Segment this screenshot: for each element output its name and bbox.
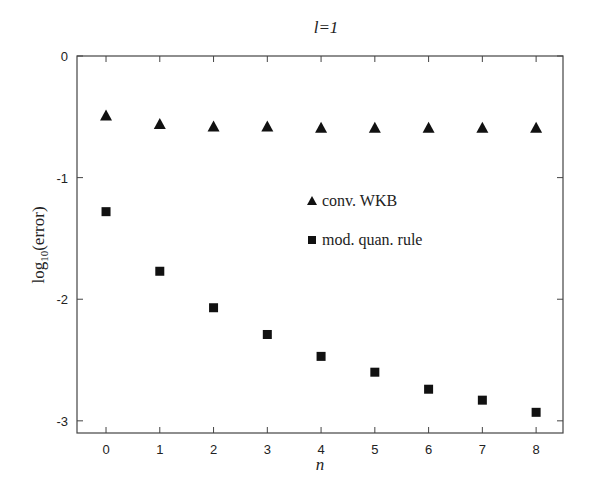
y-axis-label: log10(error) [29, 206, 50, 283]
x-tick-label: 1 [156, 442, 163, 457]
y-axis-tick-labels: 0-1-2-3 [56, 49, 68, 429]
triangle-data-point [100, 110, 112, 121]
square-marker-icon [308, 236, 316, 244]
x-tick-label: 2 [210, 442, 217, 457]
x-tick-label: 6 [425, 442, 432, 457]
x-tick-label: 0 [102, 442, 109, 457]
legend-item-conv-wkb: conv. WKB [307, 192, 397, 209]
chart-svg: l=1 012345678 0-1-2-3 n log10(error) con… [0, 0, 593, 486]
legend-label: mod. quan. rule [322, 231, 422, 249]
square-data-point [317, 352, 326, 361]
y-tick-label: -3 [56, 414, 68, 429]
square-data-point [424, 385, 433, 394]
y-axis-ticks [77, 56, 563, 421]
triangle-data-point [476, 122, 488, 133]
triangle-data-point [423, 122, 435, 133]
triangle-data-point [154, 118, 166, 129]
triangle-data-point [261, 121, 273, 132]
plot-frame [77, 56, 563, 433]
triangle-data-point [208, 121, 220, 132]
triangle-data-point [530, 122, 542, 133]
x-tick-label: 8 [533, 442, 540, 457]
square-data-point [478, 396, 487, 405]
y-tick-label: 0 [61, 49, 68, 64]
square-data-point [370, 368, 379, 377]
legend-item-mod-quan-rule: mod. quan. rule [308, 231, 422, 249]
chart-title: l=1 [314, 18, 339, 37]
x-axis-label: n [316, 455, 325, 474]
legend: conv. WKB mod. quan. rule [307, 192, 422, 249]
square-data-point [155, 267, 164, 276]
triangle-data-point [369, 122, 381, 133]
svg-text:log10(error): log10(error) [29, 206, 50, 283]
legend-label: conv. WKB [322, 192, 397, 209]
square-data-point [263, 330, 272, 339]
x-tick-label: 7 [479, 442, 486, 457]
y-tick-label: -2 [56, 292, 68, 307]
x-tick-label: 5 [371, 442, 378, 457]
square-data-point [102, 207, 111, 216]
square-data-point [532, 408, 541, 417]
y-tick-label: -1 [56, 171, 68, 186]
series-conv-wkb [100, 110, 542, 133]
triangle-data-point [315, 122, 327, 133]
x-tick-label: 3 [264, 442, 271, 457]
triangle-marker-icon [307, 196, 317, 205]
square-data-point [209, 303, 218, 312]
